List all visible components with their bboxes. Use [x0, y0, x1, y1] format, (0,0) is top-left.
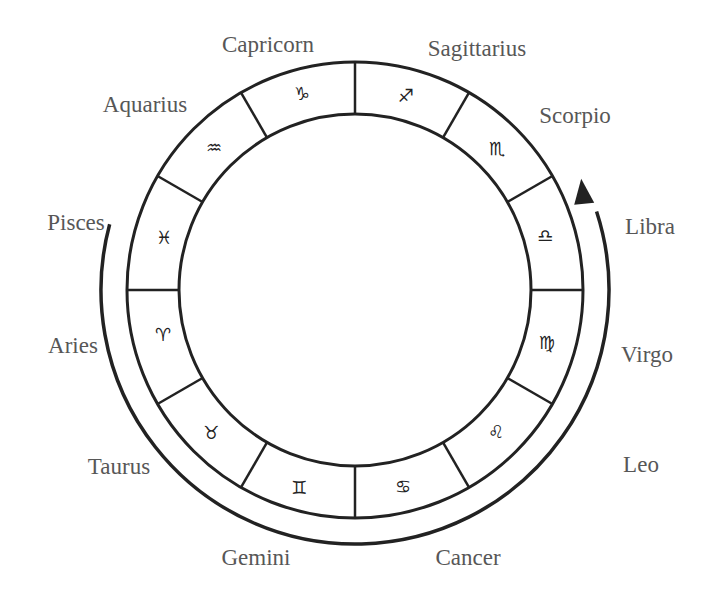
zodiac-wheel-graphic — [0, 0, 715, 599]
sign-label-aquarius: Aquarius — [103, 93, 187, 116]
capricorn-symbol-icon: ♑︎ — [294, 85, 310, 103]
sign-label-libra: Libra — [625, 215, 675, 238]
sign-divider — [241, 93, 267, 138]
aquarius-symbol-icon: ♒︎ — [206, 139, 222, 157]
sign-divider — [507, 176, 552, 202]
sign-label-taurus: Taurus — [88, 455, 150, 478]
sign-divider — [443, 442, 469, 487]
scorpio-symbol-icon: ♏︎ — [489, 140, 505, 158]
sign-divider — [507, 378, 552, 404]
arrowhead-icon — [574, 179, 594, 205]
gemini-symbol-icon: ♊︎ — [291, 479, 307, 497]
sign-divider — [241, 442, 267, 487]
sign-label-sagittarius: Sagittarius — [428, 37, 526, 60]
pisces-symbol-icon: ♓︎ — [156, 229, 172, 247]
zodiac-diagram: CapricornSagittariusScorpioLibraVirgoLeo… — [0, 0, 715, 599]
sign-label-scorpio: Scorpio — [539, 104, 611, 127]
sign-label-pisces: Pisces — [47, 211, 105, 234]
inner-ring — [179, 114, 531, 466]
sign-divider — [158, 378, 203, 404]
sign-divider — [443, 93, 469, 138]
virgo-symbol-icon: ♍︎ — [539, 334, 555, 352]
sign-dividers — [127, 62, 583, 518]
sign-divider — [158, 176, 203, 202]
leo-symbol-icon: ♌︎ — [488, 423, 504, 441]
aries-symbol-icon: ♈︎ — [155, 326, 171, 344]
sign-label-gemini: Gemini — [222, 546, 291, 569]
sign-label-cancer: Cancer — [435, 546, 500, 569]
libra-symbol-icon: ♎︎ — [537, 227, 553, 245]
sign-label-virgo: Virgo — [621, 343, 673, 366]
sign-label-leo: Leo — [623, 453, 659, 476]
rings — [127, 62, 583, 518]
cancer-symbol-icon: ♋︎ — [395, 478, 411, 496]
sagittarius-symbol-icon: ♐︎ — [398, 87, 414, 105]
taurus-symbol-icon: ♉︎ — [203, 424, 219, 442]
outer-ring — [127, 62, 583, 518]
sign-label-aries: Aries — [48, 334, 98, 357]
sign-label-capricorn: Capricorn — [222, 33, 314, 56]
